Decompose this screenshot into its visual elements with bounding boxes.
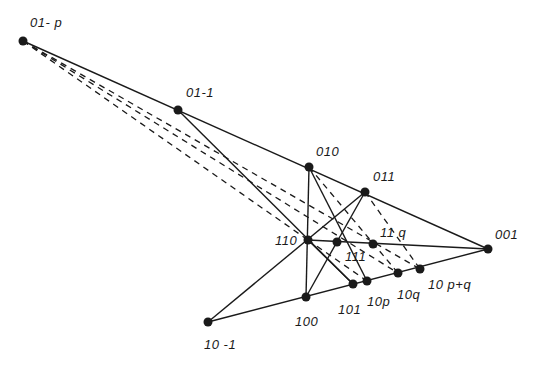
point-11q	[369, 240, 378, 249]
point-label-111: 111	[345, 250, 366, 263]
point-label-10p: 10p	[367, 295, 390, 308]
solid-lines	[23, 41, 488, 322]
point-label-01-1: 01-1	[186, 86, 214, 99]
point-100	[302, 293, 311, 302]
point-010	[305, 163, 314, 172]
point-label-011: 011	[373, 170, 395, 183]
point-011	[361, 188, 370, 197]
point-label-10p+q: 10 p+q	[428, 278, 471, 291]
point-101	[349, 280, 358, 289]
point-label-10q: 10q	[397, 288, 420, 301]
dashed-lines	[23, 41, 420, 281]
point-10-1	[204, 318, 213, 327]
point-label-11q: 11 q	[380, 226, 406, 239]
point-10p+q	[416, 265, 425, 274]
point-label-10-1: 10 -1	[204, 338, 236, 351]
point-label-110: 110	[275, 234, 297, 247]
point-10q	[394, 269, 403, 278]
point-label-001: 001	[495, 228, 518, 241]
point-110	[304, 236, 313, 245]
point-label-01-p: 01- p	[30, 16, 62, 29]
point-line-diagram	[0, 0, 542, 368]
dashed-line-01-p-10p+q	[23, 41, 420, 269]
point-label-100: 100	[295, 315, 318, 328]
point-01-p	[19, 37, 28, 46]
solid-line-01-p-001	[23, 41, 488, 249]
dashed-line-01-p-110	[23, 41, 308, 240]
solid-line-010-100	[306, 167, 309, 297]
point-label-010: 010	[316, 145, 339, 158]
dashed-line-01-p-10q	[23, 41, 398, 273]
point-10p	[363, 277, 372, 286]
point-01-1	[174, 106, 183, 115]
point-001	[484, 245, 493, 254]
point-111	[333, 238, 342, 247]
point-label-101: 101	[338, 303, 361, 316]
